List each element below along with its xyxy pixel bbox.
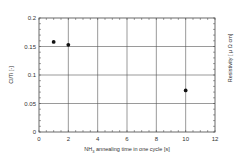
y-tick-label: 0.2 [28, 15, 37, 21]
chart: 024681012 00.050.10.150.2 NH3 annealing … [0, 0, 236, 162]
x-tick-label: 12 [212, 136, 219, 142]
data-point [184, 88, 188, 92]
y-tick-label: 0.15 [24, 44, 36, 50]
x-tick-label: 10 [182, 136, 189, 142]
x-tick-label: 0 [37, 136, 41, 142]
grid-lines [39, 18, 215, 132]
x-tick-label: 2 [67, 136, 71, 142]
x-axis-title: NH3 annealing time in one cycle [s] [84, 146, 170, 154]
y-tick-label: 0 [33, 129, 37, 135]
y-tick-label: 0.05 [24, 101, 36, 107]
data-point [66, 43, 70, 47]
x-tick-label: 4 [96, 136, 100, 142]
y-axis-right-title: Resistivity [ μ Ω cm] [227, 33, 233, 82]
x-tick-labels: 024681012 [37, 136, 219, 142]
data-points [52, 40, 188, 92]
data-point [52, 40, 56, 44]
y-tick-label: 0.1 [28, 72, 37, 78]
x-tick-label: 8 [155, 136, 159, 142]
x-tick-label: 6 [125, 136, 129, 142]
y-tick-labels: 00.050.10.150.2 [24, 15, 36, 135]
y-axis-title: Cl/Ti [-] [8, 66, 14, 84]
